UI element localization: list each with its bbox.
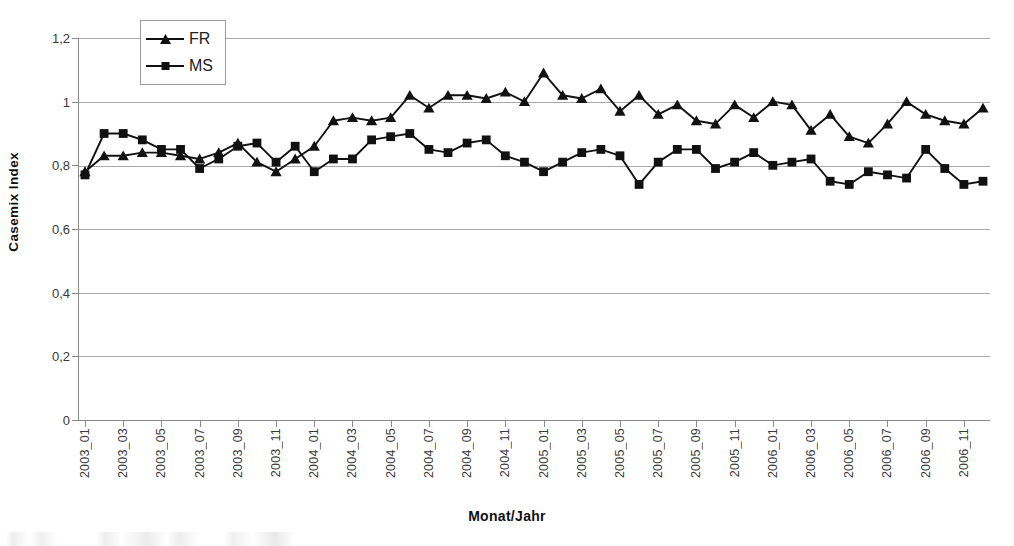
data-point-ms [883,170,892,179]
data-point-ms [959,180,968,189]
data-point-fr [729,99,740,109]
data-point-ms [845,180,854,189]
data-point-fr [920,109,931,119]
legend-label-fr: FR [189,30,210,48]
data-point-ms [539,167,548,176]
data-point-ms [100,129,109,138]
data-point-ms [807,155,816,164]
data-point-ms [826,177,835,186]
data-point-ms [272,158,281,167]
data-point-ms [329,155,338,164]
data-point-fr [595,84,606,94]
data-point-fr [404,90,415,100]
data-point-ms [864,167,873,176]
data-point-ms [463,139,472,148]
square-marker-icon [159,60,172,72]
data-point-ms [730,158,739,167]
legend-line-fr [146,32,184,46]
y-axis-title: Casemix Index [6,152,21,252]
triangle-marker-icon [159,33,172,45]
casemix-index-line-chart: 00,20,40,60,811,2 2003_012003_032003_052… [0,0,1014,546]
data-point-ms [596,145,605,154]
data-point-ms [138,135,147,144]
data-point-ms [501,151,510,160]
data-point-ms [367,135,376,144]
data-point-fr [290,154,301,164]
legend-line-ms [146,59,184,73]
data-point-ms [616,151,625,160]
data-point-ms [788,158,797,167]
x-axis-title: Monat/Jahr [0,508,1014,524]
data-point-ms [558,158,567,167]
data-point-ms [81,170,90,179]
data-point-fr [270,166,281,176]
data-point-ms [176,145,185,154]
legend-entry-fr: FR [141,26,225,52]
data-point-ms [940,164,949,173]
legend-label-ms: MS [189,57,213,75]
data-point-ms [195,164,204,173]
data-point-ms [157,145,166,154]
data-point-fr [633,90,644,100]
data-point-fr [825,109,836,119]
data-point-ms [425,145,434,154]
data-point-ms [711,164,720,173]
data-point-ms [119,129,128,138]
data-point-ms [692,145,701,154]
data-point-ms [654,158,663,167]
data-point-ms [291,142,300,151]
data-point-fr [347,112,358,122]
data-point-ms [768,161,777,170]
data-point-ms [253,139,262,148]
data-point-ms [482,135,491,144]
legend-entry-ms: MS [141,53,225,79]
data-point-ms [673,145,682,154]
data-point-ms [405,129,414,138]
data-point-ms [921,145,930,154]
data-point-fr [519,96,530,106]
data-point-ms [979,177,988,186]
data-point-fr [901,96,912,106]
data-point-ms [386,132,395,141]
data-point-fr [423,103,434,113]
data-point-ms [214,155,223,164]
data-point-ms [444,148,453,157]
scan-artifact [0,532,320,546]
data-point-fr [538,68,549,78]
data-point-ms [348,155,357,164]
legend: FR MS [140,20,226,85]
data-point-fr [767,96,778,106]
data-point-ms [902,174,911,183]
data-point-ms [520,158,529,167]
data-point-fr [977,103,988,113]
data-point-fr [500,87,511,97]
data-point-fr [672,99,683,109]
data-point-ms [577,148,586,157]
data-point-ms [233,142,242,151]
data-point-ms [310,167,319,176]
data-point-ms [749,148,758,157]
data-point-ms [635,180,644,189]
